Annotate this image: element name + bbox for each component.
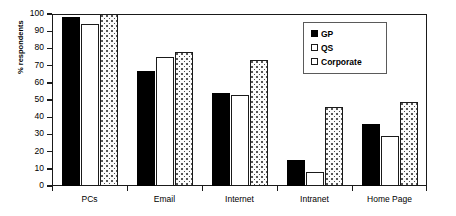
legend-entry-corporate: Corporate [311,55,381,68]
bar-qs-intranet [306,172,324,186]
x-tick-mark [52,186,53,191]
bar-gp-home-page [362,124,380,186]
bar-group-internet [212,14,268,186]
y-tick-label: 50 [35,94,44,105]
y-tick-label: 10 [35,163,44,174]
x-label-internet: Internet [225,193,254,205]
legend-swatch-corporate-icon [311,58,318,65]
y-tick-label: 100 [30,8,44,19]
y-tick-label: 40 [35,111,44,122]
y-tick-label: 30 [35,128,44,139]
bar-chart: % respondents 0102030405060708090100 PCs… [0,0,456,216]
y-tick-label: 20 [35,146,44,157]
bar-group-email [137,14,193,186]
bar-corporate-intranet [325,107,343,186]
bar-gp-pcs [62,17,80,186]
legend-swatch-qs-icon [311,44,318,51]
x-axis-ticks [52,186,427,192]
legend-entry-qs: QS [311,41,381,54]
bar-gp-email [137,71,155,186]
x-axis-labels: PCsEmailInternetIntranetHome Page [52,193,427,211]
chart-legend: GP QS Corporate [303,22,387,74]
bar-qs-pcs [81,24,99,186]
legend-swatch-gp-icon [311,30,318,37]
x-tick-mark [352,186,353,191]
bar-gp-internet [212,93,230,186]
legend-label-corporate: Corporate [321,57,362,67]
x-tick-mark [127,186,128,191]
x-tick-mark [202,186,203,191]
x-tick-mark [277,186,278,191]
y-tick-label: 60 [35,77,44,88]
bar-corporate-internet [250,60,268,186]
bar-qs-email [156,57,174,186]
y-tick-label: 90 [35,25,44,36]
y-tick-label: 70 [35,60,44,71]
bar-qs-internet [231,95,249,186]
bar-group-pcs [62,14,118,186]
bar-corporate-pcs [100,14,118,186]
legend-entry-gp: GP [311,27,381,40]
x-label-email: Email [154,193,175,205]
bar-qs-home-page [381,136,399,186]
legend-label-qs: QS [321,43,333,53]
x-label-pcs: PCs [81,193,97,205]
x-label-intranet: Intranet [300,193,329,205]
y-tick-label: 0 [39,180,44,191]
y-tick-label: 80 [35,42,44,53]
y-axis-ticks: 0102030405060708090100 [0,14,52,186]
legend-label-gp: GP [321,29,333,39]
bar-corporate-home-page [400,102,418,186]
x-label-home-page: Home Page [367,193,412,205]
bar-corporate-email [175,52,193,186]
x-tick-mark [426,186,427,191]
bar-gp-intranet [287,160,305,186]
